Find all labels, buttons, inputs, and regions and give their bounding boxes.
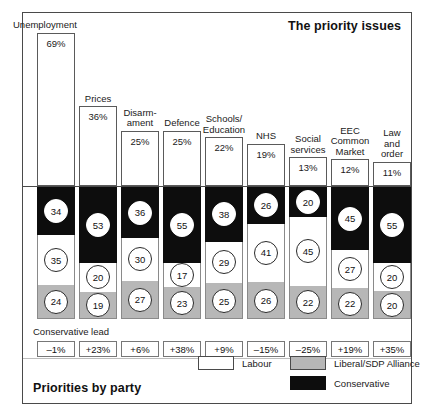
party-stacked-bar: 532019 [79, 187, 117, 319]
segment-conservative: 36 [121, 187, 159, 238]
legend-label-labour: Labour [242, 356, 272, 370]
party-stacked-bar: 452722 [331, 187, 369, 319]
segment-conservative: 34 [37, 187, 75, 235]
conservative-lead-box: +35% [373, 341, 411, 357]
segment-value-bubble: 34 [44, 199, 68, 223]
priority-bar: 25% [163, 131, 201, 187]
legend-swatch-conservative [290, 376, 326, 390]
segment-conservative: 55 [373, 187, 411, 263]
priority-percent-label: 11% [374, 167, 410, 178]
party-stacked-bar: 343524 [37, 187, 75, 319]
priority-percent-label: 13% [290, 162, 326, 173]
priority-percent-label: 19% [248, 149, 284, 160]
party-stacked-bar: 552020 [373, 187, 411, 319]
segment-conservative: 55 [163, 187, 201, 263]
segment-labour: 17 [163, 263, 201, 287]
chart-column: 25%Disarm-ament363027+6% [121, 13, 159, 403]
segment-value-bubble: 27 [128, 288, 152, 312]
priority-bar: 12% [331, 159, 369, 186]
legend-swatch-alliance [290, 356, 326, 370]
segment-labour: 35 [37, 235, 75, 285]
priority-percent-label: 12% [332, 164, 368, 175]
segment-value-bubble: 25 [212, 289, 236, 313]
conservative-lead-box: +23% [79, 341, 117, 357]
chart-column: 19%NHS264126–15% [247, 13, 285, 403]
segment-value-bubble: 20 [86, 265, 110, 289]
segment-labour: 20 [79, 263, 117, 292]
conservative-lead-box: +38% [163, 341, 201, 357]
conservative-lead-box: –25% [289, 341, 327, 357]
segment-alliance: 25 [205, 283, 243, 319]
segment-value-bubble: 20 [380, 265, 404, 289]
segment-conservative: 26 [247, 187, 285, 224]
priority-bar: 36% [79, 106, 117, 186]
segment-labour: 45 [289, 217, 327, 285]
priority-bar: 11% [373, 162, 411, 186]
issue-label: Lawandorder [367, 128, 417, 160]
chart-column: 12%EECCommonMarket452722+19% [331, 13, 369, 403]
segment-value-bubble: 45 [338, 207, 362, 231]
priority-percent-label: 69% [38, 38, 74, 49]
priority-bar: 25% [121, 131, 159, 187]
segment-value-bubble: 45 [296, 239, 320, 263]
segment-alliance: 26 [247, 282, 285, 319]
segment-value-bubble: 55 [380, 213, 404, 237]
segment-value-bubble: 29 [212, 250, 236, 274]
conservative-lead-box: +19% [331, 341, 369, 357]
segment-alliance: 19 [79, 292, 117, 319]
segment-labour: 41 [247, 224, 285, 282]
segment-labour: 30 [121, 238, 159, 281]
legend-label-alliance: Liberal/SDP Alliance [334, 356, 420, 370]
issue-label-line: Law [367, 128, 417, 139]
segment-conservative: 20 [289, 187, 327, 217]
segment-value-bubble: 38 [212, 202, 236, 226]
segment-alliance: 23 [163, 287, 201, 319]
priority-bar: 19% [247, 144, 285, 186]
segment-labour: 27 [331, 250, 369, 288]
party-stacked-bar: 363027 [121, 187, 159, 319]
segment-value-bubble: 53 [86, 213, 110, 237]
party-stacked-bar: 264126 [247, 187, 285, 319]
segment-value-bubble: 23 [170, 291, 194, 315]
conservative-lead-box: –1% [37, 341, 75, 357]
chart-column: 22%Schools/Education382925+9% [205, 13, 243, 403]
party-stacked-bar: 551723 [163, 187, 201, 319]
priority-bar: 69% [37, 33, 75, 186]
segment-value-bubble: 35 [44, 248, 68, 272]
priority-percent-label: 25% [122, 136, 158, 147]
columns-container: 69%Unemployment343524–1%36%Prices532019+… [23, 13, 411, 403]
chart-column: 13%Socialservices204522–25% [289, 13, 327, 403]
segment-value-bubble: 55 [170, 213, 194, 237]
chart-column: 11%Lawandorder552020+35% [373, 13, 411, 403]
priority-bar: 22% [205, 137, 243, 186]
segment-value-bubble: 19 [86, 293, 110, 317]
segment-conservative: 45 [331, 187, 369, 250]
conservative-lead-box: +9% [205, 341, 243, 357]
segment-value-bubble: 17 [170, 263, 194, 287]
chart-page: The priority issues Priorities by party … [0, 0, 434, 417]
party-stacked-bar: 204522 [289, 187, 327, 319]
segment-value-bubble: 26 [254, 193, 278, 217]
segment-value-bubble: 20 [380, 293, 404, 317]
segment-labour: 20 [373, 263, 411, 291]
segment-value-bubble: 20 [296, 190, 320, 214]
segment-value-bubble: 36 [128, 201, 152, 225]
segment-value-bubble: 27 [338, 257, 362, 281]
legend-swatch-labour [198, 356, 234, 370]
segment-alliance: 20 [373, 291, 411, 319]
chart-column: 25%Defence551723+38% [163, 13, 201, 403]
conservative-lead-box: +6% [121, 341, 159, 357]
legend-label-conservative: Conservative [334, 376, 389, 390]
segment-value-bubble: 22 [296, 290, 320, 314]
segment-alliance: 27 [121, 281, 159, 319]
priority-percent-label: 36% [80, 111, 116, 122]
segment-labour: 29 [205, 242, 243, 284]
issue-label-line: Prices [73, 94, 123, 105]
priority-percent-label: 22% [206, 142, 242, 153]
segment-value-bubble: 41 [254, 241, 278, 265]
segment-alliance: 22 [289, 286, 327, 319]
segment-value-bubble: 24 [44, 290, 68, 314]
issue-label-line: order [367, 149, 417, 160]
segment-conservative: 53 [79, 187, 117, 263]
issue-label: Prices [73, 94, 123, 105]
